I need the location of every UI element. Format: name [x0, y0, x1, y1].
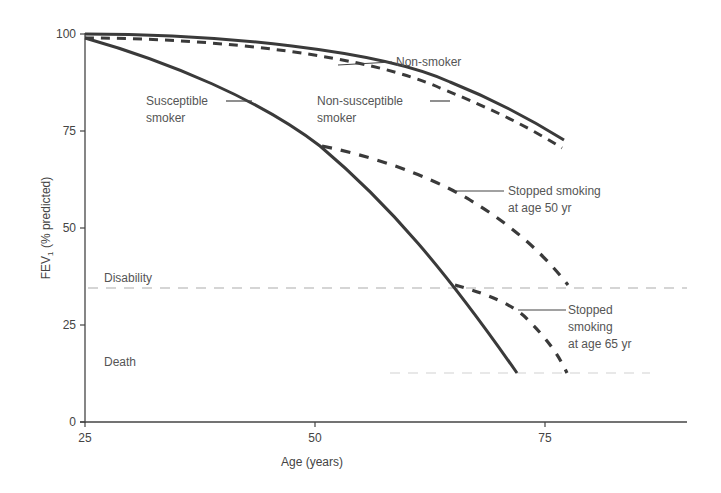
- non-susceptible-label-2: smoker: [317, 111, 356, 125]
- non-smoker-label: Non-smoker: [396, 55, 461, 69]
- stop50-label-1: Stopped smoking: [508, 184, 601, 198]
- y-tick-100: 100: [56, 27, 76, 41]
- stopped-at-65-curve: [455, 285, 567, 373]
- non-susceptible-label-1: Non-susceptible: [317, 94, 403, 108]
- susceptible-smoker-curve: [85, 38, 517, 373]
- stop65-label-3: at age 65 yr: [568, 337, 631, 351]
- fev1-age-chart: 100 75 50 25 0 25 50 75 Age (years) FEV1…: [0, 0, 721, 493]
- y-axis: 100 75 50 25 0: [56, 27, 85, 429]
- non-susceptible-smoker-curve: [85, 38, 562, 148]
- stop50-label-2: at age 50 yr: [508, 201, 571, 215]
- death-label: Death: [104, 355, 136, 369]
- non-smoker-leader: [338, 62, 392, 65]
- y-tick-0: 0: [69, 415, 76, 429]
- x-tick-50: 50: [308, 431, 322, 445]
- x-axis-title: Age (years): [281, 455, 343, 469]
- x-axis: 25 50 75: [78, 422, 687, 445]
- stop65-label-2: smoking: [568, 320, 613, 334]
- y-tick-75: 75: [63, 124, 77, 138]
- stopped-at-50-curve: [322, 146, 568, 285]
- stop65-label-1: Stopped: [568, 303, 613, 317]
- disability-label: Disability: [104, 271, 152, 285]
- y-tick-25: 25: [63, 318, 77, 332]
- x-tick-25: 25: [78, 431, 92, 445]
- x-tick-75: 75: [538, 431, 552, 445]
- susceptible-label-1: Susceptible: [146, 94, 208, 108]
- y-axis-title: FEV1 (% predicted): [39, 177, 55, 280]
- susceptible-label-2: smoker: [146, 111, 185, 125]
- y-tick-50: 50: [63, 221, 77, 235]
